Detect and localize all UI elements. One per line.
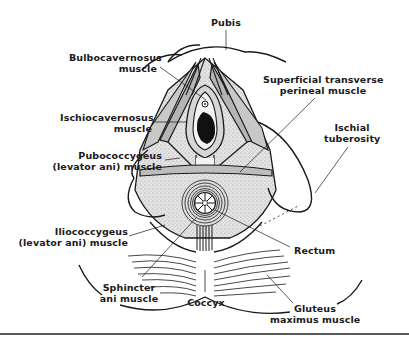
label-sphincter-ani: Sphincter ani muscle [98,282,160,304]
label-pubococcygeus: Pubococcygeus (levator ani) muscle [44,150,162,172]
label-coccyx: Coccyx [184,297,228,308]
label-iliococcygeus: Iliococcygeus (levator ani) muscle [18,226,128,248]
bottom-rule [0,333,409,335]
label-ischiocavernosus: Ischiocavernosus muscle [60,112,152,134]
label-pubis: Pubis [211,17,241,28]
label-ischial-tuberosity: Ischial tuberosity [324,122,380,144]
label-bulbocavernosus: Bulbocavernosus muscle [69,52,157,74]
label-superficial-transverse: Superficial transverse perineal muscle [263,74,383,96]
buttock-right [337,280,362,304]
label-rectum: Rectum [294,245,335,256]
label-gluteus-maximus: Gluteus maximus muscle [270,303,360,325]
